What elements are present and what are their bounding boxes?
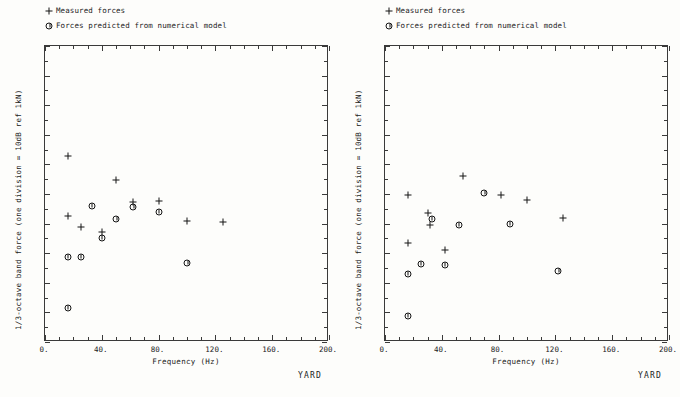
- y-tick-major: [322, 194, 327, 195]
- x-tick-major: [555, 46, 556, 51]
- data-point-predicted: [64, 253, 71, 260]
- data-point-predicted: [428, 216, 435, 223]
- plus-icon: [113, 177, 120, 184]
- x-tick-label: 160.: [262, 345, 280, 354]
- plus-icon: [64, 213, 71, 220]
- x-tick-major: [612, 335, 613, 340]
- circle-tick-icon: [42, 19, 56, 32]
- circle-tick-icon: [404, 312, 411, 319]
- data-point-predicted: [88, 203, 95, 210]
- x-tick-minor: [598, 46, 599, 49]
- figure-panel-left: Measured forces Forces predicted from nu…: [0, 0, 340, 397]
- x-tick-minor: [173, 46, 174, 49]
- y-tick-minor: [324, 268, 327, 269]
- y-tick-minor: [324, 150, 327, 151]
- x-tick-label: 40.: [434, 345, 448, 354]
- x-tick-label: 120.: [545, 345, 563, 354]
- x-tick-minor: [315, 337, 316, 340]
- y-tick-minor: [45, 298, 48, 299]
- x-tick-major: [102, 46, 103, 51]
- data-point-predicted: [417, 260, 424, 267]
- y-tick-major: [45, 342, 50, 343]
- x-tick-major: [102, 335, 103, 340]
- plus-icon: [155, 197, 162, 204]
- x-tick-minor: [88, 46, 89, 49]
- x-tick-minor: [130, 337, 131, 340]
- x-tick-minor: [470, 337, 471, 340]
- x-tick-minor: [286, 337, 287, 340]
- y-tick-major: [662, 283, 667, 284]
- x-tick-minor: [513, 46, 514, 49]
- y-tick-minor: [385, 327, 388, 328]
- x-tick-minor: [73, 337, 74, 340]
- data-point-predicted: [155, 209, 162, 216]
- x-tick-major: [45, 335, 46, 340]
- data-point-measured: [441, 247, 448, 254]
- x-tick-major: [215, 46, 216, 51]
- x-tick-major: [385, 335, 386, 340]
- circle-tick-icon: [428, 216, 435, 223]
- y-tick-major: [662, 164, 667, 165]
- x-tick-major: [329, 46, 330, 51]
- x-tick-minor: [301, 337, 302, 340]
- x-tick-minor: [584, 337, 585, 340]
- y-tick-minor: [664, 298, 667, 299]
- x-tick-minor: [301, 46, 302, 49]
- x-tick-label: 200.: [319, 345, 337, 354]
- y-tick-minor: [45, 209, 48, 210]
- x-tick-minor: [116, 337, 117, 340]
- x-tick-minor: [641, 46, 642, 49]
- x-tick-minor: [570, 337, 571, 340]
- plus-icon: [559, 214, 566, 221]
- x-tick-minor: [144, 337, 145, 340]
- plus-icon: [460, 173, 467, 180]
- x-tick-major: [272, 335, 273, 340]
- x-tick-minor: [413, 46, 414, 49]
- legend-item: Forces predicted from numerical model: [42, 19, 227, 32]
- x-tick-minor: [470, 46, 471, 49]
- x-tick-minor: [258, 46, 259, 49]
- data-point-measured: [460, 173, 467, 180]
- x-tick-major: [669, 335, 670, 340]
- legend-item: Measured forces: [42, 4, 227, 17]
- x-tick-major: [159, 335, 160, 340]
- x-tick-label: 200.: [659, 345, 677, 354]
- y-tick-major: [662, 76, 667, 77]
- x-tick-minor: [598, 337, 599, 340]
- x-tick-minor: [626, 337, 627, 340]
- plus-icon: [524, 196, 531, 203]
- x-tick-minor: [484, 46, 485, 49]
- data-point-measured: [184, 217, 191, 224]
- y-tick-major: [662, 194, 667, 195]
- y-tick-minor: [324, 209, 327, 210]
- y-tick-major: [662, 312, 667, 313]
- plus-icon: [404, 191, 411, 198]
- x-tick-minor: [116, 46, 117, 49]
- y-tick-minor: [324, 179, 327, 180]
- plus-icon: [184, 217, 191, 224]
- circle-tick-icon: [382, 19, 396, 32]
- y-tick-major: [385, 253, 390, 254]
- y-tick-major: [385, 105, 390, 106]
- y-tick-minor: [45, 179, 48, 180]
- x-tick-minor: [456, 337, 457, 340]
- x-tick-label: 120.: [205, 345, 223, 354]
- y-tick-major: [322, 46, 327, 47]
- x-tick-minor: [230, 337, 231, 340]
- x-tick-major: [442, 335, 443, 340]
- x-axis-title: Frequency (Hz): [492, 357, 559, 366]
- x-tick-minor: [655, 337, 656, 340]
- y-tick-major: [662, 342, 667, 343]
- data-point-predicted: [64, 304, 71, 311]
- x-tick-major: [499, 46, 500, 51]
- y-tick-minor: [45, 120, 48, 121]
- data-point-predicted: [98, 235, 105, 242]
- plot-frame: [44, 45, 328, 341]
- data-point-measured: [404, 191, 411, 198]
- y-tick-major: [662, 253, 667, 254]
- y-tick-major: [45, 312, 50, 313]
- x-tick-major: [555, 335, 556, 340]
- x-tick-minor: [626, 46, 627, 49]
- y-tick-minor: [45, 150, 48, 151]
- x-tick-minor: [244, 337, 245, 340]
